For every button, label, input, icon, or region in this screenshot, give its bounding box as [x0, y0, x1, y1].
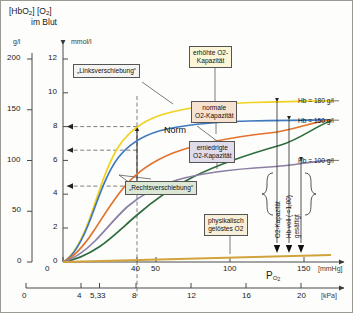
callout-increased-capacity[interactable]: erhöhte O2- Kapazität	[189, 46, 232, 68]
label-norm: Norm	[164, 125, 186, 135]
y-tick-right-8: 8	[53, 122, 57, 130]
y-tick-right-2: 2	[53, 223, 57, 231]
y-axis-header-line2: im Blut	[31, 18, 57, 27]
callout-reduced-capacity[interactable]: erniedrigte O2-Kapazität	[189, 141, 235, 163]
y-tick-left-200: 200	[7, 54, 20, 62]
x-tick-mmhg-100: 100	[223, 265, 236, 273]
y-axis-right	[63, 45, 68, 262]
x-tick-kpa-0: 0	[22, 292, 26, 300]
y-tick-left-50: 50	[12, 206, 21, 214]
x-tick-mmhg-0: 0	[45, 265, 49, 273]
x-tick-mmhg-150: 150	[297, 265, 310, 273]
x-tick-mmhg-50: 50	[151, 265, 160, 273]
reference-arrowheads	[67, 124, 73, 189]
callout-left-shift[interactable]: „Linksverschiebung“	[73, 64, 140, 78]
callout-dissolved-o2[interactable]: physikalisch gelöstes O2	[204, 214, 248, 236]
x-tick-kpa-4: 4	[77, 292, 81, 300]
x-tick-kpa-16: 16	[242, 292, 251, 300]
y-tick-right-12: 12	[48, 54, 57, 62]
y-tick-right-6: 6	[53, 156, 57, 164]
y-axis-right-unit: mmol/l	[71, 38, 92, 45]
y-axis-header-line1: [HbO2] [O2]	[9, 7, 52, 16]
x-axis-top-unit: [mmHg]	[318, 265, 343, 272]
curve-dissolved-o2	[63, 255, 331, 262]
bracket-label-saturated-line1: Hb voll ( =1,00)	[285, 195, 292, 238]
y-tick-left-0: 0	[17, 257, 21, 265]
hb-label-180: Hb = 180 g/l	[298, 97, 334, 104]
bracket-label-capacity: O2-Kapazität	[274, 201, 281, 238]
callout-normal-capacity[interactable]: normale O2-Kapazität	[191, 101, 237, 123]
bracket-label-saturated-line2: gesättigt	[293, 214, 300, 238]
x-axis-title: PO2	[266, 271, 280, 283]
hb-label-100: Hb = 100 g/l	[298, 157, 334, 164]
x-tick-kpa-533: 5,33	[90, 292, 106, 300]
hb-level-marks	[331, 101, 339, 161]
y-tick-left-100: 100	[7, 156, 20, 164]
y-axis-left	[27, 53, 32, 262]
capacity-bracket-arrowheads	[274, 245, 304, 253]
hb-label-150: Hb = 150 g/l	[298, 117, 334, 124]
x-tick-mmhg-40: 40	[131, 265, 140, 273]
x-tick-kpa-12: 12	[187, 292, 196, 300]
x-tick-kpa-8: 8	[132, 292, 136, 300]
callout-right-shift[interactable]: „Rechtsverschiebung“	[125, 181, 197, 195]
y-tick-left-150: 150	[7, 105, 20, 113]
y-tick-right-4: 4	[53, 189, 57, 197]
y-tick-right-0: 0	[53, 257, 57, 265]
y-axis-left-unit: g/l	[13, 38, 20, 45]
y-tick-right-10: 10	[48, 88, 57, 96]
x-axis-bottom-unit: [kPa]	[321, 292, 337, 299]
oxygen-dissociation-figure: [HbO2] [O2] im Blut g/l mmol/l 200 150 1…	[0, 0, 353, 313]
x-tick-kpa-20: 20	[297, 292, 306, 300]
x-axis-kpa	[26, 283, 344, 288]
